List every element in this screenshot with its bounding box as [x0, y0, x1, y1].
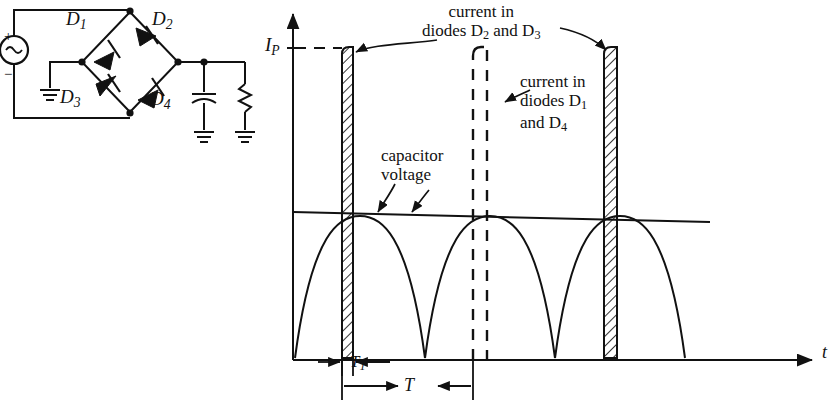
- ground-symbol-resistor: [235, 132, 255, 142]
- resistor-symbol: [239, 62, 251, 130]
- dimension-label-t1: T1: [350, 352, 366, 374]
- node-bridge-top: [126, 7, 133, 14]
- annotation-current-d1-d4: current indiodes D1and D4: [520, 72, 587, 135]
- source-polarity-minus: −: [4, 66, 12, 83]
- annotation-capacitor-voltage: capacitorvoltage: [381, 146, 443, 184]
- circuit-label-d2: D2: [152, 8, 173, 32]
- circuit-label-d1: D1: [66, 8, 87, 32]
- figure-bridge-rectifier-waveforms: [0, 0, 839, 414]
- ground-symbol-input: [40, 90, 60, 100]
- ground-symbol-capacitor: [194, 132, 214, 142]
- current-pulse-d2-d3-first: [342, 47, 353, 358]
- circuit-label-d3: D3: [60, 86, 81, 110]
- current-pulse-d1-d4: [473, 47, 487, 360]
- current-pulse-d2-d3-second: [604, 47, 617, 358]
- circuit-diagram: [0, 7, 255, 142]
- dimension-label-t: T: [404, 375, 414, 395]
- y-axis-label-ip: IP: [265, 34, 280, 58]
- capacitor-symbol: [192, 62, 216, 130]
- leader-current-d2-d3-right: [560, 28, 606, 50]
- diode-d3-symbol: [96, 74, 120, 96]
- x-axis-label-t: t: [822, 342, 827, 362]
- wire-left-to-ground: [50, 62, 82, 88]
- node-bridge-bottom: [126, 109, 133, 116]
- annotation-current-d2-d3: current indiodes D2 and D3: [422, 2, 541, 43]
- circuit-label-d4: D4: [150, 88, 171, 112]
- source-polarity-plus: +: [4, 28, 12, 45]
- leader-capacitor-voltage-left: [378, 184, 395, 212]
- leader-capacitor-voltage-right: [412, 190, 429, 212]
